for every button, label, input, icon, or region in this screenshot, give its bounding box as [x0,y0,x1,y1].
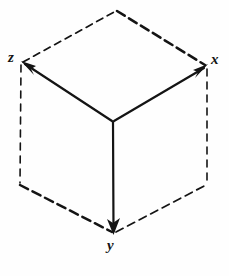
y-axis-line [113,122,114,231]
x-axis-line [114,68,204,121]
axis-label-z: z [8,50,14,65]
axes-diagram-svg [0,0,229,276]
z-axis-arrowhead [21,61,36,75]
edge-bottom-bottomright-dashed [116,185,206,232]
edge-left-bottomleft-dashed [20,65,21,183]
z-axis-line [25,64,112,121]
axis-arrowheads [21,61,208,235]
edge-top-right-dashed [117,11,205,65]
edge-bottomleft-bottom-dashed [20,185,112,232]
axis-label-y: y [107,238,114,253]
figure-canvas: z x y [0,0,229,276]
solid-axis-rays [25,64,204,231]
edge-left-top-dashed [23,11,116,62]
x-axis-arrowhead [193,64,208,78]
axis-label-x: x [211,52,219,67]
